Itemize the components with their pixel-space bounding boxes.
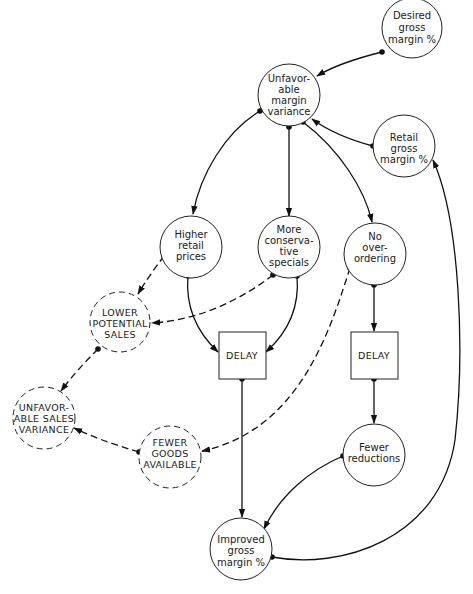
node-label: DELAY — [226, 350, 258, 361]
edge-conservative-to-lower-sales — [152, 275, 273, 323]
node-more-conservative-specials: More conserva- tive specials — [258, 216, 320, 278]
edge-fewer-reductions-to-improved — [264, 456, 343, 529]
node-label: Fewer — [359, 442, 390, 453]
node-fewer-reductions: Fewer reductions — [343, 424, 405, 486]
node-label: SALES — [104, 329, 136, 340]
edge-fewer-goods-to-unfav-sales — [74, 428, 139, 452]
node-label: gross — [228, 545, 255, 556]
node-label: specials — [269, 257, 309, 268]
node-label: DELAY — [358, 350, 390, 361]
edge-lower-sales-to-unfav-sales — [61, 349, 98, 391]
edge-origin-dot — [95, 346, 101, 352]
node-label: No — [368, 231, 382, 242]
node-label: FEWER — [153, 437, 188, 448]
node-label: reductions — [348, 453, 401, 464]
node-label: margin % — [217, 557, 265, 568]
edge-origin-dot — [379, 49, 385, 55]
node-label: over- — [362, 242, 388, 253]
node-delay-left: DELAY — [219, 332, 266, 379]
node-label: gross — [399, 22, 426, 33]
node-label: Unfavor- — [268, 73, 311, 84]
node-label: AVAILABLE — [143, 459, 197, 470]
node-label: margin — [271, 95, 306, 106]
node-label: LOWER — [102, 307, 138, 318]
node-label: ABLE SALES — [14, 413, 74, 424]
node-unfavorable-sales-variance: UNFAVOR- ABLE SALES VARIANCE — [13, 387, 75, 449]
node-desired-gross-margin: Desired gross margin % — [382, 0, 442, 58]
edge-unfav-margin-to-no-overordering — [303, 122, 372, 222]
node-label: prices — [176, 251, 206, 262]
node-higher-retail-prices: Higher retail prices — [160, 216, 222, 278]
node-label: ordering — [354, 253, 396, 264]
node-label: gross — [391, 143, 418, 154]
edge-unfav-margin-to-higher-prices — [193, 111, 260, 214]
edge-higher-prices-to-lower-sales — [138, 256, 164, 294]
node-label: Improved — [217, 534, 264, 545]
node-label: margin % — [380, 154, 428, 165]
edge-higher-prices-to-delay — [188, 276, 218, 352]
node-label: able — [278, 84, 299, 95]
node-fewer-goods-available: FEWER GOODS AVAILABLE — [139, 426, 201, 488]
node-label: conserva- — [264, 235, 313, 246]
node-label: Desired — [393, 10, 431, 21]
edge-conservative-to-delay — [266, 276, 297, 352]
edge-desired-to-unfav-margin — [317, 52, 382, 76]
node-label: Higher — [174, 229, 208, 240]
node-label: UNFAVOR- — [19, 402, 69, 413]
node-label: VARIANCE — [19, 424, 69, 435]
node-label: GOODS — [151, 448, 188, 459]
causal-loop-diagram: Desired gross margin % Unfavor- able mar… — [0, 0, 473, 594]
node-label: variance — [267, 106, 310, 117]
node-label: tive — [280, 246, 299, 257]
node-label: POTENTIAL — [92, 318, 148, 329]
node-no-over-ordering: No over- ordering — [344, 223, 406, 285]
node-improved-gross-margin: Improved gross margin % — [210, 518, 272, 580]
edge-retail-to-unfav-margin — [312, 119, 373, 146]
node-lower-potential-sales: LOWER POTENTIAL SALES — [90, 292, 150, 352]
node-label: retail — [178, 240, 204, 251]
node-label: More — [277, 224, 302, 235]
node-label: margin % — [388, 34, 436, 45]
node-retail-gross-margin: Retail gross margin % — [373, 115, 435, 177]
node-unfavorable-margin-variance: Unfavor- able margin variance — [258, 64, 320, 126]
node-delay-right: DELAY — [351, 332, 398, 379]
node-label: Retail — [390, 132, 418, 143]
